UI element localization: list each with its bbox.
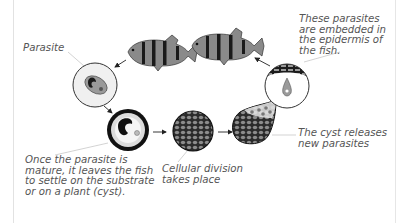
mature-parasite-label: Once the parasite is mature, it leaves t… <box>25 155 155 197</box>
parasite-label: Parasite <box>23 43 64 54</box>
epidermis-circle-icon <box>262 60 312 108</box>
fish-icon <box>192 28 264 65</box>
mature-parasite-icon <box>107 109 149 151</box>
cellular-division-icon <box>173 111 213 151</box>
cyst-release-label: The cyst releases new parasites <box>298 128 398 149</box>
epidermis-label: These parasites are embedded in the epid… <box>299 14 399 56</box>
cellular-division-label: Cellular division takes place <box>162 164 272 185</box>
parasite-circle-icon <box>73 63 117 107</box>
cyst-release-icon <box>233 100 276 144</box>
fish-icon <box>128 35 197 71</box>
